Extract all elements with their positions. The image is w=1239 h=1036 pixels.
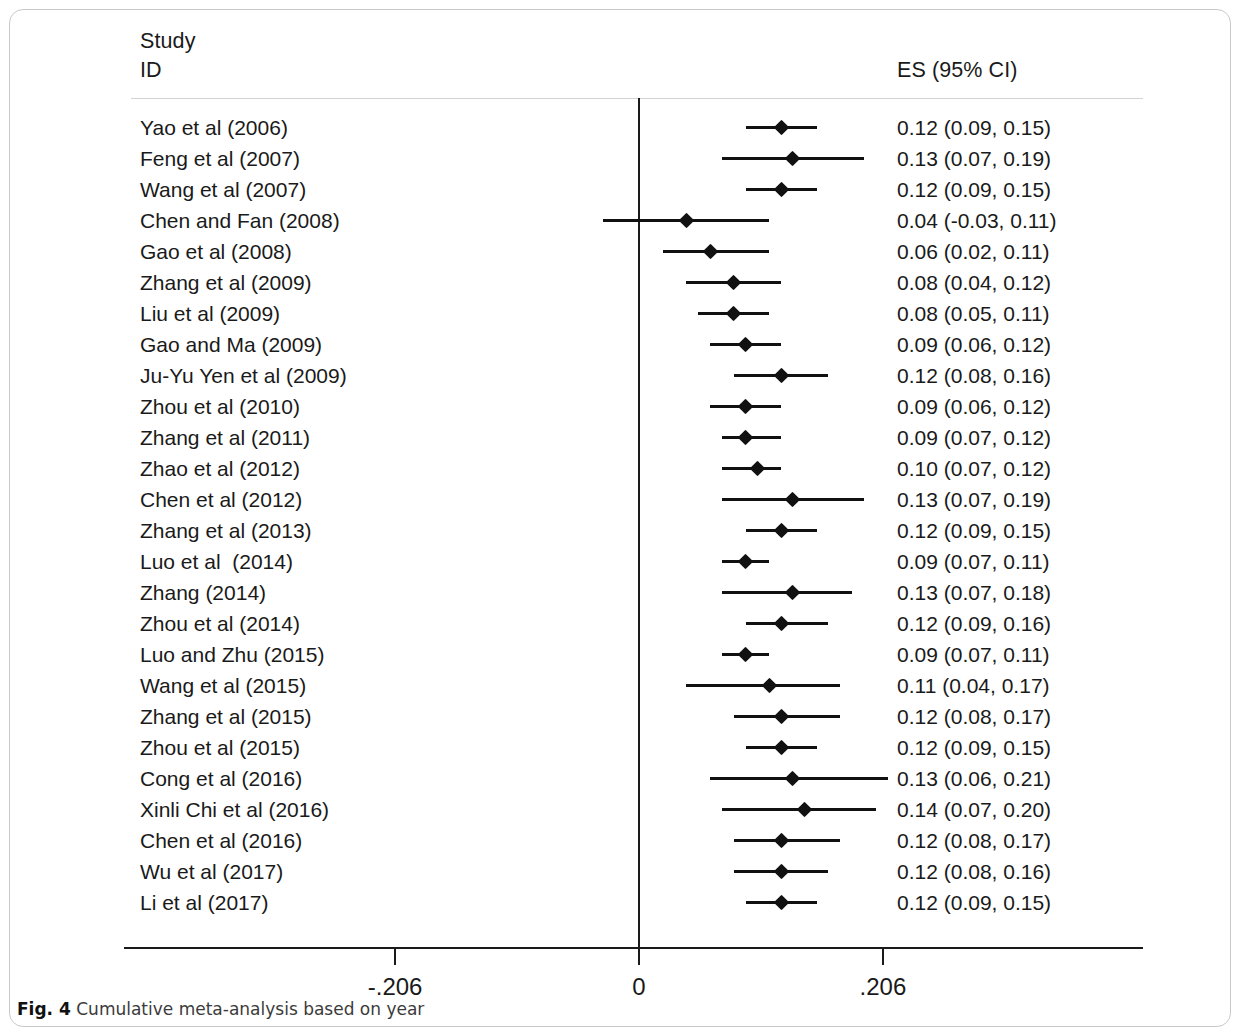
study-label: Chen et al (2012) xyxy=(140,484,302,515)
effect-size-value: 0.08 (0.05, 0.11) xyxy=(897,298,1050,329)
study-label: Ju-Yu Yen et al (2009) xyxy=(140,360,347,391)
study-label: Zhou et al (2015) xyxy=(140,732,300,763)
effect-size-marker xyxy=(738,554,754,570)
forest-row: Zhang et al (2015)0.12 (0.08, 0.17) xyxy=(0,701,1239,732)
effect-size-marker xyxy=(773,833,789,849)
effect-size-marker xyxy=(773,616,789,632)
effect-size-marker xyxy=(773,368,789,384)
effect-size-marker xyxy=(785,771,801,787)
effect-size-marker xyxy=(738,337,754,353)
effect-size-value: 0.11 (0.04, 0.17) xyxy=(897,670,1050,701)
study-label: Gao et al (2008) xyxy=(140,236,292,267)
x-axis-line xyxy=(124,947,1143,949)
effect-size-value: 0.12 (0.08, 0.16) xyxy=(897,856,1051,887)
forest-row: Luo et al (2014)0.09 (0.07, 0.11) xyxy=(0,546,1239,577)
effect-size-value: 0.12 (0.08, 0.16) xyxy=(897,360,1051,391)
forest-row: Li et al (2017)0.12 (0.09, 0.15) xyxy=(0,887,1239,918)
effect-size-marker xyxy=(738,647,754,663)
x-axis-tick xyxy=(394,949,396,965)
effect-size-value: 0.04 (-0.03, 0.11) xyxy=(897,205,1057,236)
effect-size-marker xyxy=(773,740,789,756)
forest-row: Wang et al (2015)0.11 (0.04, 0.17) xyxy=(0,670,1239,701)
effect-size-value: 0.12 (0.09, 0.15) xyxy=(897,887,1051,918)
effect-size-marker xyxy=(726,306,742,322)
forest-row: Ju-Yu Yen et al (2009)0.12 (0.08, 0.16) xyxy=(0,360,1239,391)
forest-row: Feng et al (2007)0.13 (0.07, 0.19) xyxy=(0,143,1239,174)
study-label: Zhang et al (2009) xyxy=(140,267,312,298)
effect-size-value: 0.12 (0.08, 0.17) xyxy=(897,825,1051,856)
study-label: Wang et al (2007) xyxy=(140,174,306,205)
column-header-study-id: Study ID xyxy=(140,27,195,85)
study-label: Zhang et al (2011) xyxy=(140,422,310,453)
effect-size-value: 0.12 (0.09, 0.16) xyxy=(897,608,1051,639)
effect-size-value: 0.12 (0.09, 0.15) xyxy=(897,732,1051,763)
header-divider xyxy=(131,98,1143,99)
effect-size-value: 0.13 (0.07, 0.19) xyxy=(897,484,1051,515)
effect-size-marker xyxy=(773,120,789,136)
effect-size-marker xyxy=(679,213,695,229)
effect-size-marker xyxy=(797,802,813,818)
effect-size-value: 0.09 (0.06, 0.12) xyxy=(897,329,1051,360)
study-label: Zhou et al (2010) xyxy=(140,391,300,422)
effect-size-value: 0.12 (0.09, 0.15) xyxy=(897,515,1051,546)
forest-row: Gao and Ma (2009)0.09 (0.06, 0.12) xyxy=(0,329,1239,360)
effect-size-value: 0.09 (0.07, 0.11) xyxy=(897,546,1050,577)
figure-caption: Fig. 4 Cumulative meta-analysis based on… xyxy=(17,997,424,1021)
effect-size-marker xyxy=(773,895,789,911)
forest-row: Chen et al (2016)0.12 (0.08, 0.17) xyxy=(0,825,1239,856)
study-label: Chen et al (2016) xyxy=(140,825,302,856)
effect-size-value: 0.12 (0.08, 0.17) xyxy=(897,701,1051,732)
effect-size-marker xyxy=(785,151,801,167)
effect-size-marker xyxy=(761,678,777,694)
study-label: Cong et al (2016) xyxy=(140,763,302,794)
study-label: Luo et al (2014) xyxy=(140,546,293,577)
x-axis-tick xyxy=(638,949,640,965)
x-axis-tick-label: 0 xyxy=(632,973,645,1001)
effect-size-marker xyxy=(785,492,801,508)
effect-size-value: 0.14 (0.07, 0.20) xyxy=(897,794,1051,825)
forest-row: Chen and Fan (2008)0.04 (-0.03, 0.11) xyxy=(0,205,1239,236)
effect-size-marker xyxy=(702,244,718,260)
forest-row: Gao et al (2008)0.06 (0.02, 0.11) xyxy=(0,236,1239,267)
x-axis-tick-label: .206 xyxy=(860,973,907,1001)
study-label: Wang et al (2015) xyxy=(140,670,306,701)
effect-size-value: 0.13 (0.06, 0.21) xyxy=(897,763,1051,794)
effect-size-marker xyxy=(738,430,754,446)
forest-row: Zhang et al (2011)0.09 (0.07, 0.12) xyxy=(0,422,1239,453)
effect-size-value: 0.06 (0.02, 0.11) xyxy=(897,236,1050,267)
column-header-es: ES (95% CI) xyxy=(897,56,1018,85)
effect-size-value: 0.08 (0.04, 0.12) xyxy=(897,267,1051,298)
forest-row: Wang et al (2007)0.12 (0.09, 0.15) xyxy=(0,174,1239,205)
effect-size-marker xyxy=(773,709,789,725)
figure-page: Study ID ES (95% CI) Yao et al (2006)0.1… xyxy=(0,0,1239,1036)
effect-size-value: 0.09 (0.07, 0.12) xyxy=(897,422,1051,453)
forest-row: Xinli Chi et al (2016)0.14 (0.07, 0.20) xyxy=(0,794,1239,825)
study-label: Zhang et al (2013) xyxy=(140,515,312,546)
effect-size-value: 0.10 (0.07, 0.12) xyxy=(897,453,1051,484)
study-label: Feng et al (2007) xyxy=(140,143,300,174)
study-label: Liu et al (2009) xyxy=(140,298,280,329)
study-label: Luo and Zhu (2015) xyxy=(140,639,324,670)
study-label: Zhang (2014) xyxy=(140,577,266,608)
effect-size-marker xyxy=(773,182,789,198)
effect-size-value: 0.12 (0.09, 0.15) xyxy=(897,174,1051,205)
x-axis-tick xyxy=(882,949,884,965)
forest-row: Zhao et al (2012)0.10 (0.07, 0.12) xyxy=(0,453,1239,484)
forest-row: Chen et al (2012)0.13 (0.07, 0.19) xyxy=(0,484,1239,515)
forest-row: Cong et al (2016)0.13 (0.06, 0.21) xyxy=(0,763,1239,794)
effect-size-marker xyxy=(773,864,789,880)
effect-size-value: 0.09 (0.07, 0.11) xyxy=(897,639,1050,670)
effect-size-marker xyxy=(750,461,766,477)
study-label: Gao and Ma (2009) xyxy=(140,329,322,360)
study-label: Wu et al (2017) xyxy=(140,856,283,887)
effect-size-value: 0.12 (0.09, 0.15) xyxy=(897,112,1051,143)
study-label: Chen and Fan (2008) xyxy=(140,205,340,236)
forest-row: Zhou et al (2014)0.12 (0.09, 0.16) xyxy=(0,608,1239,639)
effect-size-marker xyxy=(726,275,742,291)
study-label: Zhou et al (2014) xyxy=(140,608,300,639)
study-label: Zhao et al (2012) xyxy=(140,453,300,484)
study-label: Zhang et al (2015) xyxy=(140,701,312,732)
forest-row: Luo and Zhu (2015)0.09 (0.07, 0.11) xyxy=(0,639,1239,670)
forest-row: Liu et al (2009)0.08 (0.05, 0.11) xyxy=(0,298,1239,329)
caption-text: Cumulative meta-analysis based on year xyxy=(76,999,424,1019)
